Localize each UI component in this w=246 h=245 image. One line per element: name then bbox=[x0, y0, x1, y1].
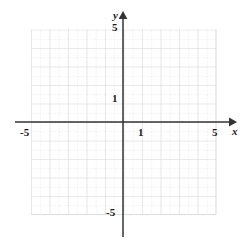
coordinate-plane-figure: y x 5 1 -5 -5 1 5 bbox=[0, 0, 246, 245]
x-tick-label-5: 5 bbox=[212, 127, 218, 138]
coordinate-grid-svg bbox=[0, 0, 246, 245]
x-axis-name-label: x bbox=[232, 126, 238, 137]
x-tick-label-minus-5: -5 bbox=[20, 127, 29, 138]
x-tick-label-1: 1 bbox=[138, 127, 144, 138]
y-tick-label-minus-5: -5 bbox=[106, 207, 115, 218]
y-tick-label-5: 5 bbox=[112, 22, 118, 33]
y-axis-name-label: y bbox=[113, 10, 118, 21]
y-axis-arrowhead-icon bbox=[119, 11, 128, 19]
y-tick-label-1: 1 bbox=[112, 93, 118, 104]
